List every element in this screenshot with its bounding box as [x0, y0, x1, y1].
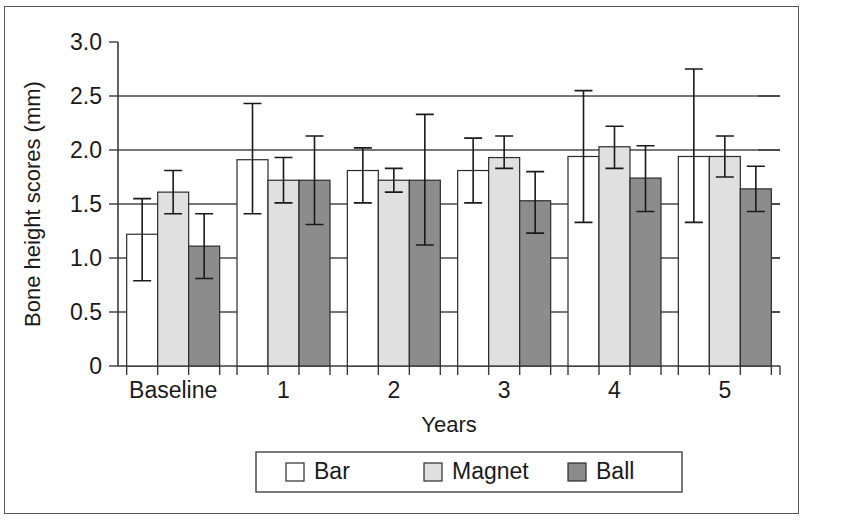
y-tick-label: 0.5	[70, 299, 102, 325]
x-axis-title: Years	[421, 412, 476, 437]
bar-series-group	[127, 147, 772, 366]
x-tick-label: 2	[387, 377, 400, 403]
y-tick-label: 3.0	[70, 29, 102, 55]
legend-label-magnet: Magnet	[452, 458, 529, 484]
y-tick-label: 1.0	[70, 245, 102, 271]
x-tick-label: 3	[498, 377, 511, 403]
y-tick-label: 0	[89, 353, 102, 379]
x-tick-label: 1	[277, 377, 290, 403]
y-axis-title: Bone height scores (mm)	[20, 81, 45, 327]
bar-magnet-2	[378, 180, 409, 366]
bar-ball-5	[740, 189, 771, 366]
legend-swatch-magnet	[424, 463, 442, 481]
y-tick-labels: 00.51.01.52.02.53.0	[70, 29, 102, 379]
error-bars-group	[133, 69, 765, 281]
bar-magnet-4	[599, 147, 630, 366]
y-tick-label: 2.5	[70, 83, 102, 109]
legend-label-ball: Ball	[596, 458, 634, 484]
x-tick-label: 5	[718, 377, 731, 403]
bar-magnet-3	[489, 158, 520, 366]
y-tick-label: 2.0	[70, 137, 102, 163]
x-tick-labels: Baseline12345	[129, 377, 731, 403]
x-tick-label: Baseline	[129, 377, 217, 403]
figure-container: Bone height scores (mm) 00.51.01.52.02.5…	[0, 0, 844, 526]
bar-chart: Bone height scores (mm) 00.51.01.52.02.5…	[0, 0, 844, 526]
legend-swatch-ball	[568, 463, 586, 481]
y-tick-label: 1.5	[70, 191, 102, 217]
bar-magnet-1	[268, 180, 299, 366]
x-axis-title-label: Years	[421, 412, 476, 437]
x-tick-marks	[127, 366, 780, 375]
bar-magnet-5	[709, 156, 740, 366]
legend-swatch-bar	[286, 463, 304, 481]
x-tick-label: 4	[608, 377, 621, 403]
bar-magnet-baseline	[158, 192, 189, 366]
chart-legend: BarMagnetBall	[256, 452, 682, 492]
legend-label-bar: Bar	[314, 458, 350, 484]
y-axis-title-label: Bone height scores (mm)	[20, 81, 45, 327]
